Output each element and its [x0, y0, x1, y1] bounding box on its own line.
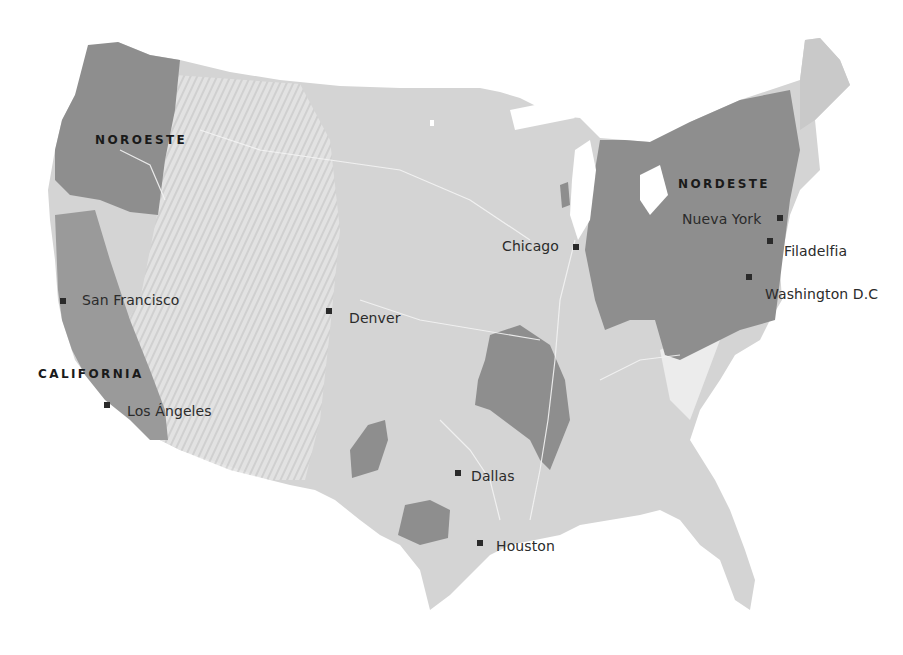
- region-noroeste-area: [55, 42, 180, 215]
- city-label-chicago: Chicago: [502, 238, 559, 254]
- us-map: [0, 0, 903, 655]
- texas-south-patch: [398, 500, 450, 545]
- city-label-houston: Houston: [496, 538, 555, 554]
- city-label-filadelfia: Filadelfia: [784, 243, 847, 259]
- city-marker-chicago: [573, 244, 579, 250]
- maine-area: [800, 38, 850, 130]
- city-label-washington-dc: Washington D.C: [765, 286, 878, 302]
- city-marker-washington-dc: [746, 274, 752, 280]
- city-marker-los-angeles: [104, 402, 110, 408]
- city-marker-dallas: [455, 470, 461, 476]
- city-label-dallas: Dallas: [471, 468, 515, 484]
- city-marker-houston: [477, 540, 483, 546]
- city-marker-nueva-york: [777, 215, 783, 221]
- region-label-nordeste: NORDESTE: [678, 177, 770, 191]
- region-label-california: CALIFORNIA: [38, 367, 144, 381]
- city-label-denver: Denver: [349, 310, 401, 326]
- city-label-nueva-york: Nueva York: [682, 211, 761, 227]
- city-marker-filadelfia: [767, 238, 773, 244]
- region-label-noroeste: NOROESTE: [95, 133, 187, 147]
- lake-patch: [430, 120, 434, 126]
- city-label-san-francisco: San Francisco: [82, 292, 179, 308]
- city-marker-san-francisco: [60, 298, 66, 304]
- city-marker-denver: [326, 308, 332, 314]
- city-label-los-angeles: Los Ángeles: [127, 403, 212, 419]
